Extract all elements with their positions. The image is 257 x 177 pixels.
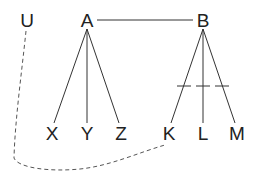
edge-b-k	[171, 29, 203, 123]
node-z: Z	[115, 123, 127, 144]
tree-diagram: U A B X Y Z K L M	[0, 0, 257, 177]
node-l: L	[198, 123, 209, 144]
edge-a-z	[87, 29, 119, 123]
edge-b-m	[203, 29, 235, 123]
node-a: A	[81, 10, 94, 31]
edge-u-k-dashed	[14, 31, 165, 170]
edge-a-x	[54, 29, 87, 123]
node-y: Y	[81, 123, 94, 144]
node-m: M	[229, 123, 245, 144]
node-k: K	[163, 123, 176, 144]
node-x: X	[46, 123, 59, 144]
node-u: U	[20, 10, 34, 31]
node-b: B	[197, 10, 210, 31]
